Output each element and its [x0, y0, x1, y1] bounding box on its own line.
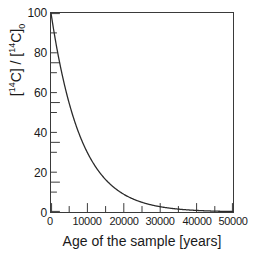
- x-tick-label: 30000: [145, 216, 174, 227]
- x-tick-label: 40000: [182, 216, 211, 227]
- y-axis-title-open: [: [8, 92, 24, 96]
- x-axis-title: Age of the sample [years]: [50, 233, 234, 249]
- x-tick-label: 0: [47, 216, 53, 227]
- plot-area: [50, 12, 234, 213]
- x-tick-label: 50000: [218, 216, 247, 227]
- decay-curve-svg: [51, 13, 233, 212]
- y-axis-title-subscript: 0: [17, 24, 27, 29]
- y-tick-label: 40: [34, 127, 47, 139]
- y-tick-label: 60: [34, 87, 47, 99]
- y-axis-title-mass: 14: [7, 82, 17, 92]
- x-tick-label: 20000: [109, 216, 138, 227]
- y-axis-minor-ticks: [51, 33, 57, 192]
- y-tick-label: 100: [28, 7, 47, 19]
- carbon14-decay-figure: 100 80 60 40 20 0 0 10000 20000 30000 40…: [0, 0, 269, 257]
- y-axis-title-element: C] / [: [8, 53, 24, 83]
- y-axis-title-mass2: 14: [7, 43, 17, 53]
- y-axis-title-element2: C]: [8, 29, 24, 43]
- y-tick-label: 20: [34, 167, 47, 179]
- y-tick-label: 0: [41, 207, 47, 219]
- x-tick-label: 10000: [72, 216, 101, 227]
- y-axis-title: [14C] / [14C]0: [8, 0, 24, 120]
- x-axis-minor-ticks: [69, 206, 215, 212]
- decay-curve-line: [51, 13, 233, 212]
- y-tick-label: 80: [34, 47, 47, 59]
